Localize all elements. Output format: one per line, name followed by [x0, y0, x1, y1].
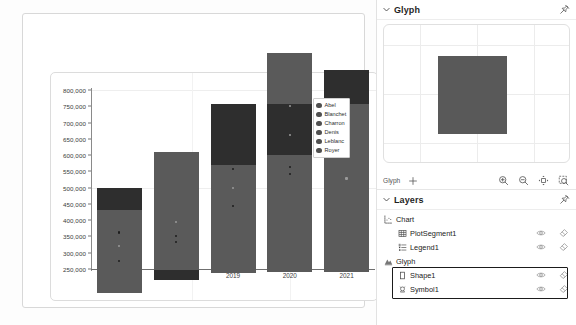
bar[interactable]: [211, 104, 256, 273]
layer-group-chart[interactable]: Chart: [377, 212, 576, 226]
bar[interactable]: [154, 152, 199, 280]
glyph-editor-body[interactable]: [377, 20, 576, 172]
legend-icon: [397, 242, 407, 252]
legend-item-label: Blanchet: [325, 110, 347, 119]
glyph-guide-vertical-left: [420, 25, 421, 162]
layer-item-legend1[interactable]: Legend1: [377, 240, 576, 254]
legend-item-label: Leblanc: [325, 137, 345, 146]
chevron-down-icon[interactable]: [382, 5, 391, 14]
x-axis-tick-label: 2020: [283, 272, 297, 279]
legend-swatch-icon: [316, 121, 322, 127]
legend-item[interactable]: Blanchet: [316, 110, 346, 119]
plot-segment-icon: [397, 228, 407, 238]
layer-item-label: PlotSegment1: [410, 229, 456, 238]
bar-segment[interactable]: [211, 104, 256, 166]
data-point-marker[interactable]: [118, 245, 120, 247]
chart-canvas-pane[interactable]: 250,000300,000350,000400,000450,000500,0…: [0, 0, 376, 325]
legend-item-label: Charron: [325, 119, 345, 128]
bar-segment[interactable]: [267, 104, 312, 155]
data-point-marker[interactable]: [232, 187, 234, 189]
legend-item-label: Abel: [325, 101, 336, 110]
layer-item-plotsegment1[interactable]: PlotSegment1: [377, 226, 576, 240]
chart-legend[interactable]: AbelBlanchetCharronDenisLeblancRoyer: [313, 98, 350, 158]
data-point-marker[interactable]: [175, 221, 177, 223]
fit-to-view-icon[interactable]: [537, 174, 550, 187]
legend-swatch-icon: [316, 103, 322, 109]
data-point-marker[interactable]: [289, 173, 291, 175]
layer-item-actions: [536, 228, 569, 238]
eraser-icon[interactable]: [559, 284, 569, 294]
eye-icon[interactable]: [536, 242, 546, 252]
legend-swatch-icon: [316, 112, 322, 118]
legend-swatch-icon: [316, 139, 322, 145]
layers-panel-title: Layers: [394, 195, 424, 205]
layer-item-actions: [536, 242, 569, 252]
legend-item[interactable]: Charron: [316, 119, 346, 128]
glyph-toolbar[interactable]: Glyph: [377, 172, 576, 190]
shape-rect-icon: [397, 270, 407, 280]
bar[interactable]: [97, 188, 142, 294]
eraser-icon[interactable]: [559, 242, 569, 252]
data-point-marker[interactable]: [118, 260, 120, 262]
legend-swatch-icon: [316, 130, 322, 136]
layer-item-symbol1[interactable]: Symbol1: [377, 282, 576, 296]
layer-group-label: Glyph: [396, 257, 415, 266]
eraser-icon[interactable]: [559, 270, 569, 280]
eye-icon[interactable]: [536, 228, 546, 238]
x-axis-tick-label: 2019: [226, 272, 240, 279]
legend-item[interactable]: Royer: [316, 146, 346, 155]
data-point-marker[interactable]: [175, 235, 177, 237]
eye-icon[interactable]: [536, 284, 546, 294]
bar-segment[interactable]: [154, 270, 199, 281]
zoom-selection-icon[interactable]: [557, 174, 570, 187]
eraser-icon[interactable]: [559, 228, 569, 238]
symbol-icon: [397, 284, 407, 294]
zoom-out-icon[interactable]: [517, 174, 530, 187]
glyph-toolbar-label: Glyph: [383, 177, 400, 184]
x-axis-tick-label: 2021: [339, 272, 353, 279]
chevron-down-icon[interactable]: [382, 195, 391, 204]
legend-item[interactable]: Leblanc: [316, 137, 346, 146]
glyph-panel-header[interactable]: Glyph: [377, 0, 576, 20]
layer-item-shape1[interactable]: Shape1: [377, 268, 576, 282]
layers-tree[interactable]: ChartPlotSegment1Legend1GlyphShape1Symbo…: [377, 210, 576, 325]
layer-item-label: Shape1: [410, 271, 435, 280]
legend-item-label: Royer: [325, 146, 340, 155]
glyph-guide-vertical-right: [534, 25, 535, 162]
glyph-canvas[interactable]: [383, 24, 570, 163]
legend-item-label: Denis: [325, 128, 339, 137]
pin-icon[interactable]: [559, 194, 570, 205]
eye-icon[interactable]: [536, 270, 546, 280]
layers-panel-header[interactable]: Layers: [377, 190, 576, 210]
data-point-marker[interactable]: [232, 168, 234, 170]
chart-frame[interactable]: 250,000300,000350,000400,000450,000500,0…: [22, 13, 365, 308]
chart-icon: [383, 214, 393, 224]
glyph-shape-rect[interactable]: [438, 56, 507, 134]
glyph-toolbar-actions: [497, 174, 570, 187]
pin-icon[interactable]: [559, 4, 570, 15]
data-point-marker[interactable]: [118, 231, 120, 233]
data-point-marker[interactable]: [175, 241, 177, 243]
layer-item-label: Legend1: [410, 243, 439, 252]
data-point-marker[interactable]: [289, 166, 291, 168]
legend-swatch-icon: [316, 148, 322, 154]
zoom-in-icon[interactable]: [497, 174, 510, 187]
bar[interactable]: [267, 53, 312, 273]
right-side-panels: Glyph Glyph: [376, 0, 576, 325]
legend-item[interactable]: Denis: [316, 128, 346, 137]
data-point-marker[interactable]: [345, 177, 347, 179]
layer-item-label: Symbol1: [410, 285, 439, 294]
bar-segment[interactable]: [97, 188, 142, 210]
glyph-panel-title: Glyph: [394, 5, 420, 15]
layer-group-label: Chart: [396, 215, 414, 224]
layer-group-glyph[interactable]: Glyph: [377, 254, 576, 268]
layer-item-actions: [536, 270, 569, 280]
data-point-marker[interactable]: [289, 134, 291, 136]
add-glyph-button[interactable]: [406, 174, 419, 187]
data-point-marker[interactable]: [232, 205, 234, 207]
glyph-icon: [383, 256, 393, 266]
layer-item-actions: [536, 284, 569, 294]
legend-item[interactable]: Abel: [316, 101, 346, 110]
